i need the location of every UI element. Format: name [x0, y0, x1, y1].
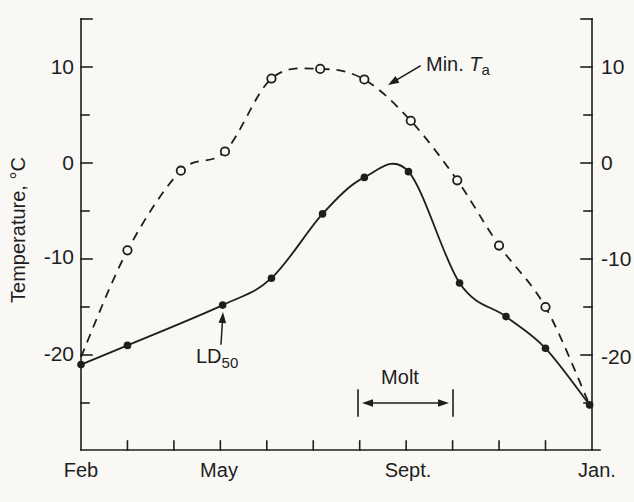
min-ta-marker — [123, 246, 131, 254]
molt-arrow-right-head — [438, 399, 449, 407]
left-tick--10: -10 — [44, 245, 74, 268]
axes — [81, 19, 600, 450]
right-tick--20: -20 — [601, 345, 631, 368]
x-label-sept: Sept. — [385, 459, 432, 481]
min-ta-curve — [81, 68, 590, 405]
left-y-tick-labels: 10 0 -10 -20 — [44, 55, 74, 365]
right-y-tick-labels: 10 0 -10 -20 — [601, 55, 631, 368]
ld50-marker — [456, 279, 464, 287]
min-ta-marker — [316, 65, 324, 73]
annotation-arrows — [219, 66, 453, 416]
min-ta-marker — [453, 176, 461, 184]
min-ta-label: Min. Ta — [426, 53, 491, 78]
ld50-marker — [502, 313, 510, 321]
ld50-label-prefix: LD — [196, 345, 222, 367]
ld50-marker — [124, 342, 132, 350]
x-tick-labels: Feb May Sept. Jan. — [64, 459, 616, 481]
min-ta-marker — [407, 117, 415, 125]
right-tick-0: 0 — [601, 151, 613, 174]
left-tick--20: -20 — [44, 342, 74, 365]
ld50-label-subscript: 50 — [222, 354, 239, 371]
x-label-feb: Feb — [64, 459, 98, 481]
ld50-arrow-head — [219, 312, 227, 323]
figure: Temperature, °C 10 0 -10 -20 10 0 -10 -2… — [0, 0, 634, 502]
ld50-label: LD50 — [196, 345, 238, 371]
ld50-marker — [268, 274, 276, 282]
ld50-marker — [586, 401, 594, 409]
ld50-marker — [319, 210, 327, 218]
molt-arrow-left-head — [362, 399, 373, 407]
x-label-jan: Jan. — [578, 459, 616, 481]
ld50-curve — [81, 164, 590, 405]
series — [77, 65, 593, 409]
min-ta-marker — [177, 166, 185, 174]
left-tick-0: 0 — [62, 151, 74, 174]
min-ta-marker — [495, 241, 503, 249]
right-tick-10: 10 — [601, 55, 624, 78]
min-ta-marker — [360, 75, 368, 83]
right-tick--10: -10 — [601, 247, 631, 270]
temperature-chart: Temperature, °C 10 0 -10 -20 10 0 -10 -2… — [0, 0, 634, 502]
min-ta-marker — [267, 74, 275, 82]
min-ta-marker — [541, 303, 549, 311]
y-axis-title: Temperature, °C — [7, 157, 29, 303]
x-label-may: May — [200, 459, 238, 481]
molt-label: Molt — [381, 366, 419, 388]
ld50-marker — [361, 174, 369, 182]
min-ta-label-prefix: Min. — [426, 53, 469, 75]
min-ta-marker — [221, 147, 229, 155]
ld50-marker — [77, 361, 85, 369]
min-ta-arrow-head — [388, 76, 399, 85]
ld50-marker — [219, 301, 227, 309]
ld50-marker — [542, 344, 550, 352]
min-ta-label-subscript: a — [482, 61, 491, 78]
left-tick-10: 10 — [51, 55, 74, 78]
ld50-marker — [405, 168, 413, 176]
